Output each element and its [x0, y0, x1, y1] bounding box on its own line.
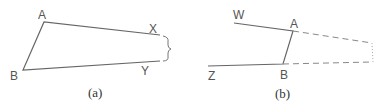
diagram-canvas: A B X Y (a) W A B Z (b) — [0, 0, 389, 109]
line-x-a-b-y — [23, 22, 160, 70]
brace-icon — [163, 36, 171, 61]
label-w: W — [233, 8, 245, 22]
label-a-b: A — [290, 17, 298, 31]
label-a: A — [38, 8, 46, 22]
label-b-b: B — [280, 68, 288, 82]
label-z: Z — [208, 69, 215, 83]
dotted-right — [372, 43, 373, 62]
caption-b: (b) — [275, 86, 290, 101]
caption-a: (a) — [88, 85, 102, 100]
dashed-top — [293, 31, 372, 43]
figure-a: A B X Y (a) — [10, 8, 171, 100]
label-b: B — [10, 69, 18, 83]
figure-b: W A B Z (b) — [208, 8, 373, 101]
label-y: Y — [141, 64, 149, 78]
dashed-bottom — [283, 62, 372, 64]
label-x: X — [149, 22, 157, 36]
line-w-a-b-z — [208, 23, 293, 66]
